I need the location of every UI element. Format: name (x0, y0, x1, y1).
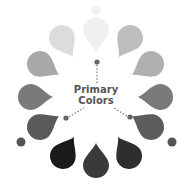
dotted-connector (114, 108, 127, 116)
drop-12-teardrop (83, 17, 109, 52)
drop-2-teardrop (125, 46, 168, 86)
label-line-2: Colors (66, 95, 126, 106)
drop-8-teardrop (22, 105, 65, 145)
drop-9-teardrop (18, 84, 53, 110)
label-line-1: Primary (66, 84, 126, 95)
outer-circle (91, 5, 101, 15)
drop-4-teardrop (125, 105, 168, 145)
drop-3-teardrop (138, 84, 173, 110)
primary-dot (63, 115, 68, 120)
drop-6-teardrop (83, 143, 109, 178)
dotted-connector (69, 108, 84, 117)
center-label: Primary Colors (66, 84, 126, 106)
drop-7-teardrop (45, 130, 85, 173)
outer-circle (17, 138, 26, 147)
primary-dot (127, 114, 132, 119)
drop-5-teardrop (107, 130, 147, 173)
drop-10-teardrop (22, 46, 65, 86)
primary-dot (94, 59, 99, 64)
outer-circle (168, 138, 177, 147)
